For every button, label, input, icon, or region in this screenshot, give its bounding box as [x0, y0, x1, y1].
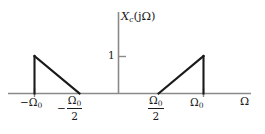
fraction: Ω0 2 — [148, 95, 164, 122]
x-tick-label-omega0: Ω0 — [190, 97, 204, 109]
fraction-numerator: Ω0 — [67, 95, 83, 108]
x-tick-label-neg-omega0-half: − Ω0 2 — [57, 95, 82, 122]
omega-symbol: Ω — [68, 94, 77, 106]
y-axis-function-label: Xc(jΩ) — [121, 11, 155, 23]
omega-subscript: 0 — [158, 99, 163, 108]
x-axis-name-label: Ω — [240, 96, 249, 107]
minus-sign: − — [57, 103, 66, 114]
fraction-denominator: 2 — [152, 109, 159, 122]
y-axis-function-argument: (jΩ) — [133, 9, 155, 23]
minus-sign: − — [20, 96, 29, 108]
omega-symbol: Ω — [29, 96, 38, 108]
omega-symbol: Ω — [149, 94, 158, 106]
omega-subscript: 0 — [199, 101, 204, 110]
negative-lobe-hypotenuse — [35, 56, 80, 94]
fraction-numerator: Ω0 — [148, 95, 164, 108]
omega-symbol: Ω — [190, 96, 199, 108]
y-tick-label-one: 1 — [108, 50, 115, 61]
x-tick-label-neg-omega0: −Ω0 — [20, 97, 42, 109]
fraction: Ω0 2 — [67, 95, 83, 122]
x-tick-label-omega0-half: Ω0 2 — [148, 95, 164, 122]
omega-subscript: 0 — [38, 101, 43, 110]
omega-subscript: 0 — [77, 99, 82, 108]
positive-lobe-hypotenuse — [159, 56, 204, 94]
fraction-denominator: 2 — [71, 109, 78, 122]
y-axis-function-symbol: X — [121, 9, 129, 23]
fourier-transform-figure: Xc(jΩ) 1 −Ω0 − Ω0 2 Ω0 2 Ω0 Ω — [0, 0, 265, 134]
